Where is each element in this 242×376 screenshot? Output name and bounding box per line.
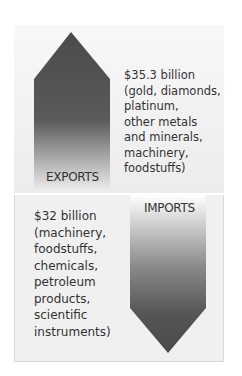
exports-description: $35.3 billion (gold, diamonds, platinum,…: [124, 68, 221, 177]
imports-down-arrow-icon: [130, 195, 206, 353]
exports-up-arrow-icon: [34, 32, 110, 192]
exports-label: EXPORTS: [46, 170, 99, 184]
imports-label: IMPORTS: [144, 201, 195, 215]
imports-description: $32 billion (machinery, foodstuffs, chem…: [34, 208, 111, 340]
